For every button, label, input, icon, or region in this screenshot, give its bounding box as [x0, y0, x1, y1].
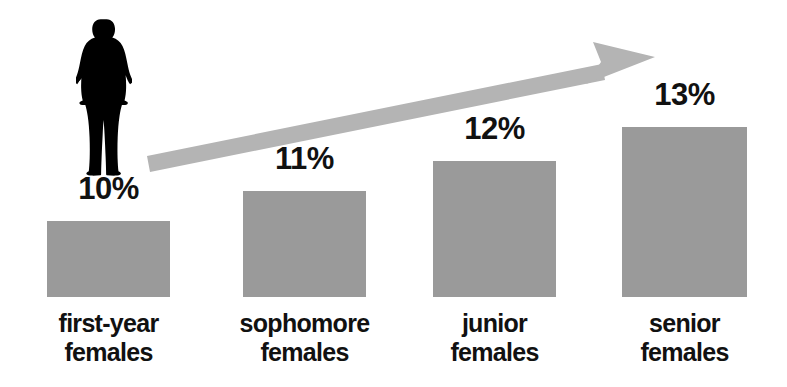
category-label-sophomore-females: sophomore females: [208, 309, 401, 367]
value-label-first-year-females: 10%: [47, 173, 170, 204]
category-label-line2: females: [208, 338, 401, 367]
bar-sophomore-females: [243, 191, 366, 297]
bar-senior-females: [622, 127, 747, 297]
category-label-line1: junior: [398, 309, 591, 338]
category-label-line1: senior: [588, 309, 781, 338]
category-label-line2: females: [588, 338, 781, 367]
value-label-senior-females: 13%: [622, 79, 747, 110]
chart-canvas: 10% 11% 12% 13% first-year females sopho…: [0, 0, 787, 387]
value-label-sophomore-females: 11%: [243, 143, 366, 174]
category-label-line2: females: [398, 338, 591, 367]
category-label-line1: sophomore: [208, 309, 401, 338]
category-label-senior-females: senior females: [588, 309, 781, 367]
standing-female-silhouette-icon: [76, 18, 132, 178]
category-label-line2: females: [12, 338, 205, 367]
category-label-line1: first-year: [12, 309, 205, 338]
category-label-first-year-females: first-year females: [12, 309, 205, 367]
category-label-junior-females: junior females: [398, 309, 591, 367]
bar-first-year-females: [47, 221, 170, 297]
bar-junior-females: [433, 161, 556, 297]
value-label-junior-females: 12%: [433, 113, 556, 144]
